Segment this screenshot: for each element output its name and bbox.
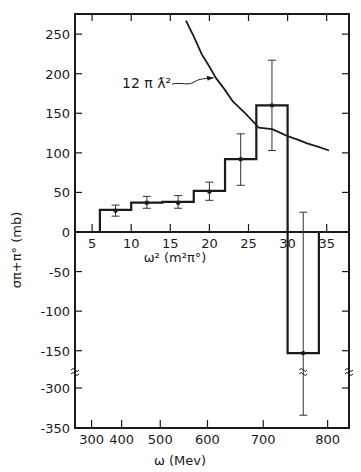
x2-tick-label: 700 xyxy=(251,432,276,447)
curve-path xyxy=(186,21,329,151)
y-tick-label: 100 xyxy=(45,146,70,161)
data-point xyxy=(176,201,180,205)
data-point xyxy=(238,157,242,161)
y-tick-label: 50 xyxy=(53,185,70,200)
x-tick-label: 5 xyxy=(88,236,96,251)
y-tick-label: 150 xyxy=(45,106,70,121)
x-tick-label: 35 xyxy=(318,236,335,251)
x-tick-label: 20 xyxy=(201,236,218,251)
y-tick-label: 0 xyxy=(62,225,70,240)
x-axis-omega-squared: 5101520253035 xyxy=(88,14,335,251)
x2-tick-label: 800 xyxy=(315,432,340,447)
data-point xyxy=(113,208,117,212)
y-tick-label: -100 xyxy=(40,304,70,319)
x2-tick-label: 400 xyxy=(109,432,134,447)
unitarity-limit-curve xyxy=(172,21,329,151)
curve-label: 12 π ƛ² xyxy=(122,75,171,91)
y-tick-label: -50 xyxy=(49,265,70,280)
x2-tick-label: 300 xyxy=(79,432,104,447)
y-tick-label: -300 xyxy=(40,381,70,396)
y-tick-label: 250 xyxy=(45,27,70,42)
x-tick-label: 25 xyxy=(240,236,257,251)
x-axis-omega: 300400500600700800 xyxy=(79,420,340,447)
arrow-head-icon xyxy=(207,76,214,81)
y-tick-label: 200 xyxy=(45,67,70,82)
x2-tick-label: 600 xyxy=(195,432,220,447)
y-axis-title: σπ+π° (mb) xyxy=(9,212,24,288)
x2-tick-label: 500 xyxy=(148,432,173,447)
data-point xyxy=(270,103,274,107)
x-tick-label: 10 xyxy=(123,236,140,251)
y-tick-label: -350 xyxy=(40,421,70,436)
data-point xyxy=(145,201,149,205)
data-point xyxy=(301,351,305,355)
plot-border xyxy=(75,14,349,428)
axis-break-marks xyxy=(71,369,353,376)
y-tick-label: -150 xyxy=(40,344,70,359)
cross-section-chart: 250200150100500-50-100-150-300-350 51015… xyxy=(0,0,361,472)
x-tick-label: 15 xyxy=(162,236,179,251)
x-axis-title-omega: ω (Mev) xyxy=(154,453,206,468)
x-axis-title-omega-squared: ω² (m²π°) xyxy=(144,250,207,265)
data-point xyxy=(207,189,211,193)
plot-frame xyxy=(75,14,349,428)
